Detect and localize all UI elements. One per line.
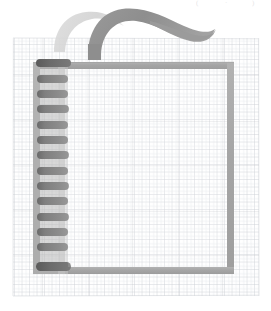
spiral-notebook-illustration (0, 0, 271, 311)
notebook-blank-page (68, 69, 227, 267)
spiral-ring (37, 197, 68, 205)
spiral-ring (37, 228, 68, 236)
spiral-ring (37, 213, 69, 221)
spiral-ring (37, 151, 69, 159)
spiral-ring (37, 136, 68, 144)
spiral-ring (37, 90, 68, 98)
spiral-ring (37, 105, 69, 113)
spiral-ring (37, 182, 69, 190)
spiral-ring (36, 262, 71, 271)
illustration-stage: ( · ) (0, 0, 271, 311)
spiral-ring (37, 167, 68, 175)
spiral-ring (37, 121, 68, 129)
spiral-ring (37, 75, 68, 83)
spiral-ring (37, 243, 68, 251)
spiral-ring (36, 59, 71, 67)
